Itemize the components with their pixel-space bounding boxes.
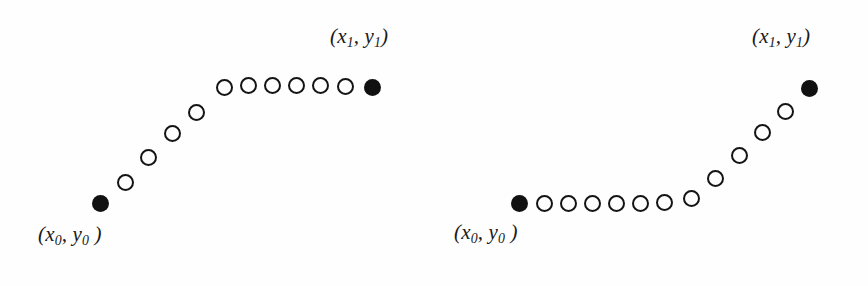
path-node-open	[536, 195, 553, 212]
path-node-open	[240, 77, 257, 94]
path-node-open	[754, 124, 771, 141]
endpoint-node-filled	[511, 195, 528, 212]
path-node-open	[656, 194, 673, 211]
end-label-comma: ,	[776, 24, 787, 48]
end-label-y-var: y	[787, 24, 797, 48]
start-label-y-var: y	[489, 220, 499, 244]
path-node-open	[777, 103, 794, 120]
end-label-close-paren: )	[381, 24, 388, 48]
path-node-open	[117, 174, 134, 191]
endpoint-node-filled	[92, 195, 109, 212]
end-label-close-paren: )	[803, 24, 810, 48]
path-node-open	[632, 195, 649, 212]
path-node-open	[707, 170, 724, 187]
endpoint-node-filled	[801, 80, 818, 97]
path-node-open	[608, 195, 625, 212]
start-label-x-var: x	[461, 220, 471, 244]
end-label-x-var: x	[337, 24, 347, 48]
end-point-label: (x1, y1)	[330, 24, 388, 51]
path-node-open	[164, 125, 181, 142]
diagram-panel-left: (x0, y0 )(x1, y1)	[0, 0, 434, 286]
diagram-panel-right: (x0, y0 )(x1, y1)	[434, 0, 868, 286]
path-node-open	[140, 149, 157, 166]
end-label-comma: ,	[354, 24, 365, 48]
start-label-y-subscript: 0	[82, 233, 89, 248]
start-label-y-var: y	[73, 222, 83, 246]
path-node-open	[264, 77, 281, 94]
start-label-close-paren: )	[505, 220, 518, 244]
end-label-y-subscript: 1	[796, 35, 803, 50]
start-label-x-subscript: 0	[55, 233, 62, 248]
path-node-open	[312, 77, 329, 94]
start-label-comma: ,	[478, 220, 489, 244]
path-node-open	[337, 78, 354, 95]
path-node-open	[584, 195, 601, 212]
path-node-open	[683, 190, 700, 207]
path-node-open	[288, 77, 305, 94]
start-point-label: (x0, y0 )	[454, 220, 518, 247]
end-label-x-subscript: 1	[347, 35, 354, 50]
end-label-y-var: y	[365, 24, 375, 48]
path-node-open	[731, 147, 748, 164]
end-label-y-subscript: 1	[374, 35, 381, 50]
end-label-x-var: x	[759, 24, 769, 48]
path-node-open	[216, 79, 233, 96]
start-label-x-subscript: 0	[471, 231, 478, 246]
end-label-x-subscript: 1	[769, 35, 776, 50]
endpoint-node-filled	[364, 79, 381, 96]
start-point-label: (x0, y0 )	[38, 222, 102, 249]
start-label-x-var: x	[45, 222, 55, 246]
path-node-open	[560, 195, 577, 212]
end-point-label: (x1, y1)	[752, 24, 810, 51]
figure-root: (x0, y0 )(x1, y1)(x0, y0 )(x1, y1)	[0, 0, 868, 286]
start-label-comma: ,	[62, 222, 73, 246]
path-node-open	[188, 104, 205, 121]
start-label-close-paren: )	[89, 222, 102, 246]
start-label-y-subscript: 0	[498, 231, 505, 246]
